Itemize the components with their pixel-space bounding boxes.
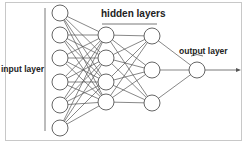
- nodes: [52, 5, 205, 136]
- connection-edge: [60, 13, 106, 82]
- input-node: [52, 74, 68, 90]
- hidden1-node: [98, 50, 114, 66]
- hidden-layers-label: hidden layers: [101, 8, 165, 19]
- hidden1-node: [98, 27, 114, 43]
- input-node: [52, 27, 68, 43]
- hidden2-node: [144, 28, 160, 44]
- input-node: [52, 50, 68, 66]
- input-layer-label: input layer: [1, 64, 44, 74]
- input-node: [52, 5, 68, 21]
- hidden2-node: [144, 95, 160, 111]
- output-node: [189, 62, 205, 78]
- hidden1-node: [98, 74, 114, 90]
- neural-network-diagram: [0, 0, 245, 149]
- arrowhead-icon: [236, 68, 241, 72]
- input-node: [52, 97, 68, 113]
- connections: [60, 13, 197, 128]
- hidden2-node: [144, 62, 160, 78]
- input-node: [52, 120, 68, 136]
- output-layer-label: output layer: [179, 46, 228, 56]
- hidden1-node: [98, 94, 114, 110]
